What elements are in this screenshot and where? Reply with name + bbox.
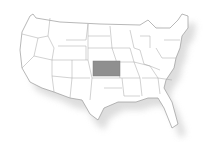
us-map <box>0 0 214 142</box>
us-map-svg <box>0 0 214 142</box>
kansas-highlight[interactable] <box>93 61 120 76</box>
